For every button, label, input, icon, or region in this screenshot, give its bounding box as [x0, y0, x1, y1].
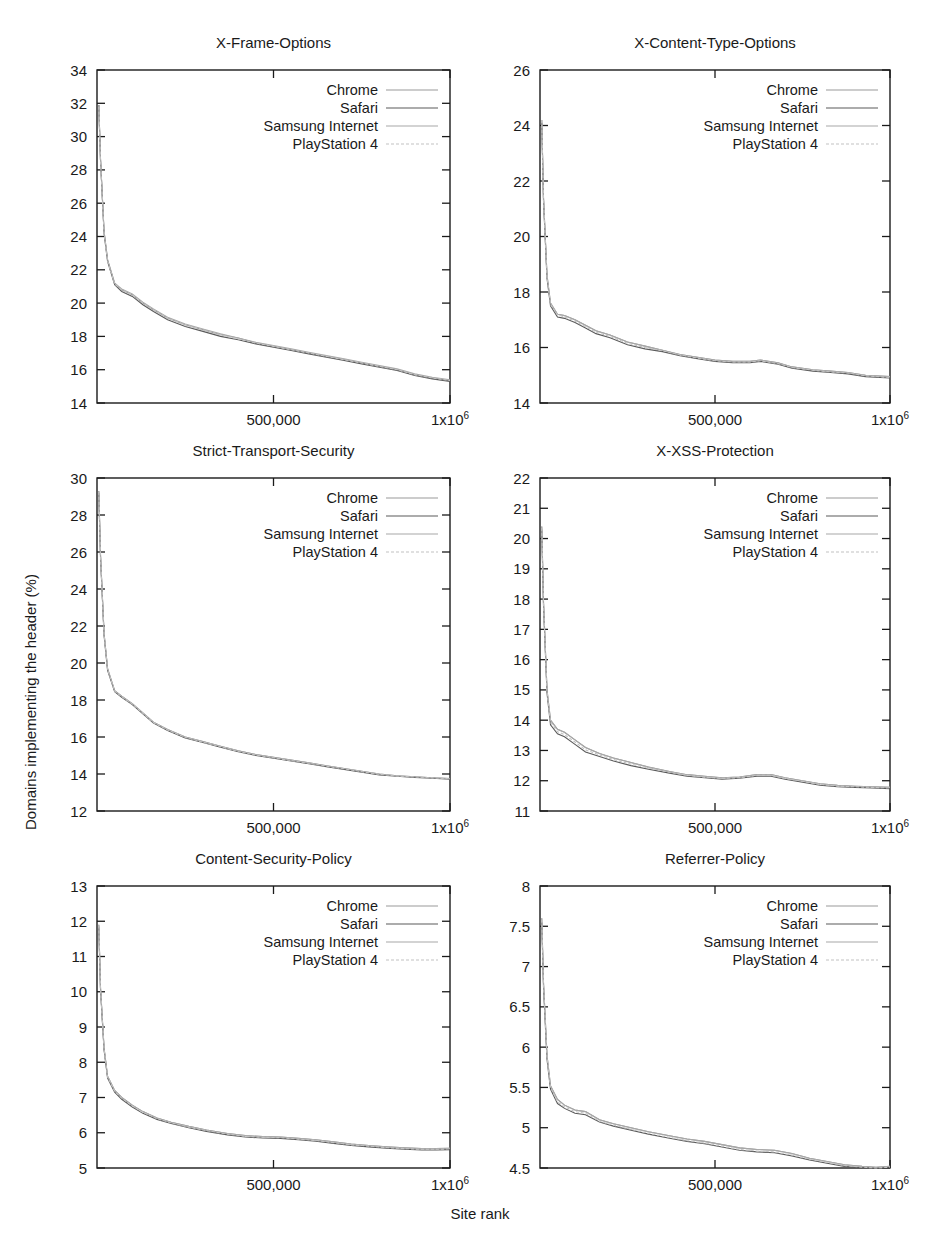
panel-title-5: Content-Security-Policy: [97, 850, 450, 867]
plot-box-4: [540, 478, 890, 811]
series-line-safari: [542, 123, 890, 378]
chart-panel-6: Referrer-Policy4.555.566.577.58500,0001x…: [0, 0, 951, 1249]
panel-svg-1: 1416182022242628303234500,0001x106Chrome…: [0, 0, 951, 1249]
panel-title-1: X-Frame-Options: [97, 34, 450, 51]
series-line-chrome: [99, 491, 450, 779]
y-tick-label: 5.5: [509, 1079, 530, 1096]
y-tick-label: 28: [70, 161, 87, 178]
y-tick-label: 24: [70, 581, 87, 598]
y-tick-label: 18: [513, 591, 530, 608]
y-tick-label: 20: [70, 655, 87, 672]
series-line-samsung-internet: [99, 491, 450, 779]
y-tick-label: 15: [513, 681, 530, 698]
panel-svg-2: 14161820222426500,0001x106ChromeSafariSa…: [0, 0, 951, 1249]
plot-box-5: [97, 886, 450, 1168]
legend-label-chrome: Chrome: [326, 82, 378, 98]
panel-svg-5: 5678910111213500,0001x106ChromeSafariSam…: [0, 0, 951, 1249]
chart-panel-5: Content-Security-Policy5678910111213500,…: [0, 0, 951, 1249]
y-tick-label: 7: [522, 958, 530, 975]
y-tick-label: 10: [70, 983, 87, 1000]
legend-label-safari: Safari: [780, 916, 818, 932]
plot-box-1: [97, 70, 450, 403]
legend-label-playstation-4: PlayStation 4: [733, 544, 818, 560]
x-tick-label: 1x106: [871, 818, 910, 836]
x-tick-label: 1x106: [871, 1175, 910, 1193]
x-tick-label: 1x106: [431, 410, 470, 428]
series-line-safari: [99, 105, 450, 381]
y-tick-label: 24: [70, 228, 87, 245]
figure-y-axis-label: Domains implementing the header (%): [22, 574, 39, 830]
y-tick-label: 4.5: [509, 1160, 530, 1177]
legend-label-chrome: Chrome: [766, 898, 818, 914]
chart-panel-2: X-Content-Type-Options14161820222426500,…: [0, 0, 951, 1249]
series-line-chrome: [99, 105, 450, 381]
panel-title-2: X-Content-Type-Options: [540, 34, 890, 51]
series-line-chrome: [542, 120, 890, 377]
x-tick-label: 1x106: [431, 818, 470, 836]
legend-label-playstation-4: PlayStation 4: [293, 952, 378, 968]
y-tick-label: 5: [79, 1160, 87, 1177]
y-tick-label: 13: [513, 742, 530, 759]
series-line-safari: [99, 927, 450, 1150]
legend-label-playstation-4: PlayStation 4: [293, 544, 378, 560]
y-tick-label: 8: [79, 1054, 87, 1071]
legend-label-samsung-internet: Samsung Internet: [704, 118, 818, 134]
y-tick-label: 14: [70, 395, 87, 412]
y-tick-label: 16: [513, 651, 530, 668]
legend-label-playstation-4: PlayStation 4: [733, 136, 818, 152]
y-tick-label: 6: [522, 1039, 530, 1056]
y-tick-label: 14: [513, 712, 530, 729]
y-tick-label: 26: [513, 62, 530, 79]
y-tick-label: 16: [70, 729, 87, 746]
series-line-safari: [542, 922, 890, 1168]
panel-svg-3: 12141618202224262830500,0001x106ChromeSa…: [0, 0, 951, 1249]
y-tick-label: 20: [513, 530, 530, 547]
y-tick-label: 11: [71, 948, 87, 965]
series-line-playstation-4: [542, 528, 890, 788]
x-tick-label: 500,000: [246, 1176, 300, 1193]
y-tick-label: 28: [70, 507, 87, 524]
panel-title-3: Strict-Transport-Security: [97, 442, 450, 459]
y-tick-label: 12: [513, 772, 530, 789]
legend-label-chrome: Chrome: [326, 490, 378, 506]
y-tick-label: 6: [79, 1124, 87, 1141]
panel-svg-6: 4.555.566.577.58500,0001x106ChromeSafari…: [0, 0, 951, 1249]
series-line-playstation-4: [542, 920, 890, 1168]
chart-panel-3: Strict-Transport-Security121416182022242…: [0, 0, 951, 1249]
plot-box-3: [97, 478, 450, 811]
plot-box-2: [540, 70, 890, 403]
y-tick-label: 14: [70, 766, 87, 783]
y-tick-label: 16: [513, 339, 530, 356]
y-tick-label: 24: [513, 117, 530, 134]
y-tick-label: 12: [70, 913, 87, 930]
legend-label-samsung-internet: Samsung Internet: [264, 934, 378, 950]
series-line-samsung-internet: [542, 918, 890, 1167]
y-tick-label: 7.5: [509, 918, 530, 935]
series-line-chrome: [99, 925, 450, 1149]
y-tick-label: 6.5: [509, 998, 530, 1015]
x-tick-label: 500,000: [246, 819, 300, 836]
y-tick-label: 22: [513, 470, 530, 487]
panel-svg-4: 111213141516171819202122500,0001x106Chro…: [0, 0, 951, 1249]
chart-panel-4: X-XSS-Protection111213141516171819202122…: [0, 0, 951, 1249]
chart-panel-1: X-Frame-Options1416182022242628303234500…: [0, 0, 951, 1249]
legend-label-chrome: Chrome: [326, 898, 378, 914]
y-tick-label: 8: [522, 878, 530, 895]
multi-panel-chart-figure: X-Frame-Options1416182022242628303234500…: [0, 0, 951, 1249]
series-line-playstation-4: [542, 120, 890, 378]
y-tick-label: 22: [70, 618, 87, 635]
series-line-samsung-internet: [542, 120, 890, 377]
legend-label-chrome: Chrome: [766, 82, 818, 98]
y-tick-label: 17: [513, 621, 530, 638]
y-tick-label: 14: [513, 395, 530, 412]
y-tick-label: 20: [513, 228, 530, 245]
y-tick-label: 22: [70, 261, 87, 278]
y-tick-label: 16: [70, 361, 87, 378]
x-tick-label: 500,000: [246, 411, 300, 428]
legend-label-safari: Safari: [340, 100, 378, 116]
legend-label-safari: Safari: [780, 508, 818, 524]
legend-label-safari: Safari: [780, 100, 818, 116]
x-tick-label: 1x106: [431, 1175, 470, 1193]
legend-label-playstation-4: PlayStation 4: [293, 136, 378, 152]
y-tick-label: 18: [513, 284, 530, 301]
